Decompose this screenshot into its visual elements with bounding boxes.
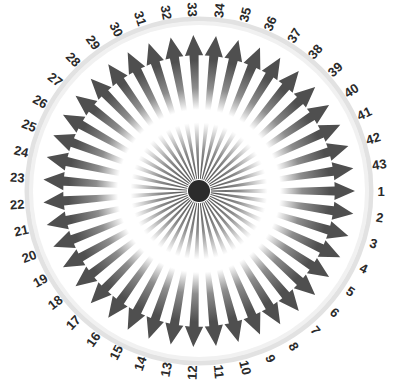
segment-label-21: 21: [13, 223, 30, 239]
segment-label-8: 8: [286, 340, 301, 353]
segment-label-3: 3: [368, 236, 379, 251]
segment-label-41: 41: [355, 105, 374, 123]
segment-label-19: 19: [31, 271, 50, 289]
segment-label-18: 18: [45, 293, 64, 312]
segment-label-20: 20: [20, 247, 38, 264]
segment-label-31: 31: [132, 10, 149, 28]
segment-label-26: 26: [31, 93, 50, 111]
segment-label-1: 1: [378, 185, 385, 198]
segment-label-9: 9: [263, 353, 278, 365]
segment-label-42: 42: [365, 130, 383, 147]
segment-label-23: 23: [10, 171, 25, 185]
segment-label-29: 29: [84, 33, 103, 52]
segment-label-36: 36: [262, 14, 280, 32]
segment-label-4: 4: [358, 261, 370, 276]
segment-label-27: 27: [45, 70, 64, 89]
segment-label-10: 10: [237, 358, 253, 375]
segment-label-15: 15: [107, 343, 125, 362]
segment-label-2: 2: [375, 211, 384, 225]
segment-label-ring: 1234567891011121314151617181920212223242…: [0, 0, 398, 385]
segment-label-40: 40: [341, 81, 360, 100]
rosette-figure: 1234567891011121314151617181920212223242…: [0, 0, 398, 385]
segment-label-13: 13: [158, 362, 173, 379]
segment-label-30: 30: [107, 20, 125, 39]
segment-label-11: 11: [212, 364, 226, 379]
segment-label-38: 38: [306, 41, 325, 60]
segment-label-7: 7: [308, 324, 323, 338]
segment-label-12: 12: [186, 365, 200, 380]
segment-label-22: 22: [10, 197, 25, 211]
segment-label-24: 24: [13, 144, 30, 160]
segment-label-39: 39: [325, 60, 344, 79]
segment-label-33: 33: [186, 2, 200, 17]
segment-label-5: 5: [344, 284, 357, 299]
segment-label-37: 37: [285, 26, 304, 45]
segment-label-43: 43: [371, 157, 387, 172]
segment-label-25: 25: [20, 117, 38, 134]
segment-label-32: 32: [158, 4, 173, 21]
segment-label-34: 34: [212, 2, 227, 18]
segment-label-28: 28: [63, 50, 82, 69]
segment-label-14: 14: [132, 354, 149, 372]
segment-label-6: 6: [328, 305, 342, 320]
segment-label-16: 16: [84, 329, 103, 348]
segment-label-17: 17: [63, 312, 82, 331]
segment-label-35: 35: [237, 6, 253, 23]
